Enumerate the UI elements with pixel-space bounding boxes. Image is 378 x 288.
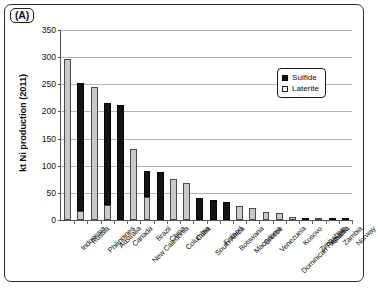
bar-group [249, 30, 256, 220]
x-tick-mark [352, 220, 353, 224]
plot-area: 050100150200250300350 [60, 30, 352, 221]
bar-segment-laterite [91, 87, 98, 220]
bar-group [289, 30, 296, 220]
bar-segment-laterite [249, 208, 256, 220]
bar-group [342, 30, 349, 220]
bar-segment-sulfide [144, 171, 151, 198]
bar-group [104, 30, 111, 220]
bar-group [183, 30, 190, 220]
y-tick-label: 0 [51, 215, 56, 225]
bar-segment-sulfide [342, 218, 349, 220]
bar-group [210, 30, 217, 220]
bar-segment-laterite [130, 149, 137, 220]
bar-segment-sulfide [302, 218, 309, 220]
y-tick-label: 200 [42, 106, 56, 116]
legend-item-laterite: Laterite [282, 83, 319, 94]
bar-group [157, 30, 164, 220]
y-tick-mark [58, 220, 62, 221]
y-tick-label: 350 [42, 25, 56, 35]
x-axis-labels: IndonesiaRussiaPhilippinesAustraliaCanad… [60, 222, 352, 284]
bar-segment-sulfide [157, 172, 164, 220]
bar-segment-laterite [236, 206, 243, 220]
legend-item-sulfide: Sulfide [282, 72, 319, 83]
bar-group [263, 30, 270, 220]
y-tick-label: 250 [42, 79, 56, 89]
bar-segment-laterite [183, 183, 190, 220]
bar-segment-sulfide [210, 200, 217, 220]
x-tick-label: Russia [89, 224, 111, 246]
bar-group [302, 30, 309, 220]
bar-segment-laterite [289, 217, 296, 220]
legend-label-laterite: Laterite [292, 84, 319, 93]
bar-group [117, 30, 124, 220]
bar-segment-sulfide [104, 103, 111, 205]
bar-group [196, 30, 203, 220]
bar-segment-sulfide [77, 83, 84, 212]
bar-group [144, 30, 151, 220]
bar-group [170, 30, 177, 220]
y-tick-label: 100 [42, 161, 56, 171]
bar-segment-laterite [144, 197, 151, 220]
y-tick-label: 300 [42, 52, 56, 62]
bar-group [77, 30, 84, 220]
legend-swatch-laterite-icon [282, 86, 288, 92]
bar-segment-sulfide [223, 202, 230, 220]
bar-group [91, 30, 98, 220]
bar-group [315, 30, 322, 220]
bar-group [236, 30, 243, 220]
legend-swatch-sulfide-icon [282, 75, 288, 81]
legend-label-sulfide: Sulfide [292, 73, 317, 82]
bar-segment-laterite [104, 205, 111, 220]
bar-segment-sulfide [196, 198, 203, 220]
bar-segment-sulfide [329, 218, 336, 220]
bar-segment-sulfide [117, 105, 124, 220]
bar-group [276, 30, 283, 220]
bar-group [130, 30, 137, 220]
y-tick-label: 150 [42, 134, 56, 144]
y-axis-title: kt Ni production (2011) [18, 38, 28, 208]
bar-segment-laterite [315, 218, 322, 220]
bar-group [64, 30, 71, 220]
bar-segment-laterite [77, 211, 84, 220]
bar-series-layer [61, 30, 352, 220]
panel-label: (A) [10, 8, 34, 23]
bar-segment-laterite [170, 179, 177, 220]
bar-segment-laterite [263, 212, 270, 220]
y-tick-label: 50 [46, 188, 56, 198]
bar-group [223, 30, 230, 220]
chart-legend: Sulfide Laterite [277, 68, 326, 98]
bar-segment-laterite [64, 59, 71, 220]
bar-segment-laterite [276, 213, 283, 220]
bar-group [329, 30, 336, 220]
